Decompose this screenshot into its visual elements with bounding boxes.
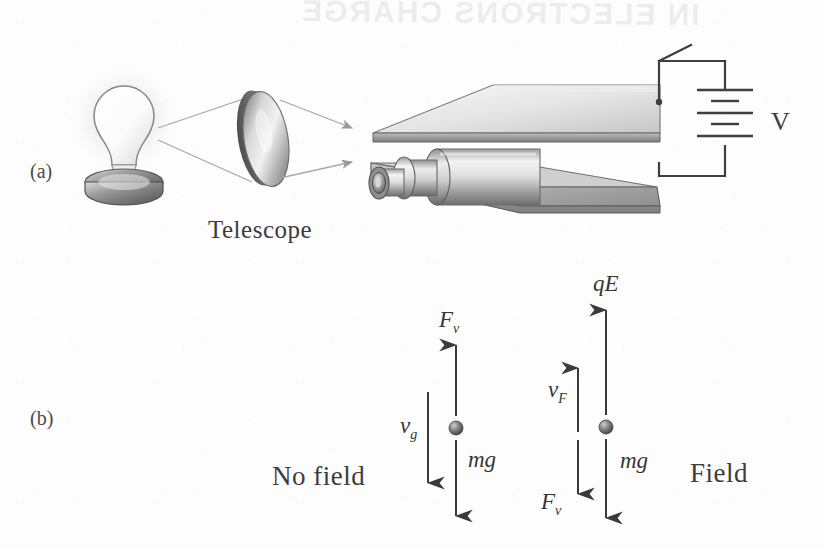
- ray-lower-in: [158, 140, 252, 182]
- label-vg-symbol: v: [400, 413, 410, 438]
- field-label: Field: [690, 458, 748, 489]
- telescope-label: Telescope: [208, 216, 312, 244]
- battery-symbol: [697, 90, 753, 136]
- panel-label-a: (a): [30, 160, 52, 183]
- field-force-diagram: [578, 310, 606, 518]
- label-Fv-field: Fv: [541, 489, 561, 519]
- ray-upper-out: [280, 100, 352, 128]
- light-rays-outgoing: [280, 100, 352, 178]
- label-Fv-no-field-subscript: v: [453, 321, 459, 336]
- upper-plate-face: [373, 85, 660, 133]
- upper-plate-highlight: [493, 85, 660, 92]
- voltage-label: V: [771, 107, 790, 137]
- label-vF-subscript: F: [558, 391, 567, 406]
- label-qE: qE: [593, 271, 619, 297]
- plate-contact-dot: [656, 99, 662, 105]
- oil-drop-field: [599, 420, 613, 434]
- light-source: [66, 68, 182, 205]
- label-Fv-no-field-symbol: F: [439, 307, 453, 332]
- label-Fv-field-subscript: v: [555, 503, 561, 518]
- wire-bottom: [659, 146, 725, 176]
- label-mg-no-field: mg: [468, 447, 496, 473]
- label-mg-field: mg: [620, 448, 648, 474]
- ray-lower-out: [280, 162, 352, 178]
- no-field-label: No field: [272, 461, 365, 492]
- telescope-eyepiece-center: [375, 179, 380, 188]
- label-vF: vF: [548, 377, 567, 407]
- telescope-section-3: [437, 149, 540, 205]
- millikan-figure: IN ELECTRONS CHARGE: [0, 0, 825, 549]
- label-vg: vg: [400, 413, 417, 443]
- label-vF-symbol: v: [548, 377, 558, 402]
- oil-drop-no-field: [449, 421, 463, 435]
- label-Fv-field-symbol: F: [541, 489, 555, 514]
- wire-top: [659, 61, 725, 102]
- upper-plate-edge: [373, 133, 660, 142]
- upper-plate: [373, 85, 660, 142]
- telescope-barrel: [369, 149, 540, 205]
- label-Fv-no-field: Fv: [439, 307, 459, 337]
- circuit: [656, 45, 725, 176]
- label-vg-subscript: g: [410, 427, 417, 442]
- switch-blade: [659, 45, 691, 61]
- panel-label-b: (b): [30, 407, 53, 430]
- lamp-base-highlight: [98, 174, 150, 190]
